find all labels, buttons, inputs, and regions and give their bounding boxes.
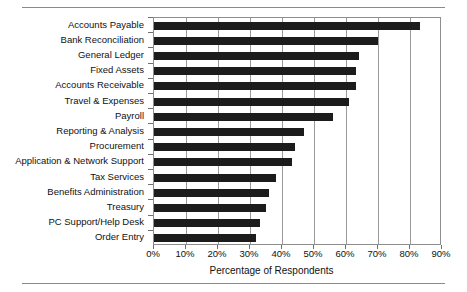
bar (154, 128, 304, 136)
category-tick-mark (148, 169, 153, 170)
bar (154, 143, 295, 151)
bar (154, 52, 359, 60)
category-label: Order Entry (0, 232, 149, 242)
category-tick-mark (148, 78, 153, 79)
category-tick-mark (148, 215, 153, 216)
category-tick-mark (148, 139, 153, 140)
bar (154, 37, 378, 45)
category-tick-mark (148, 108, 153, 109)
gridline (378, 18, 379, 244)
category-label: Reporting & Analysis (0, 126, 149, 136)
category-tick-mark (148, 154, 153, 155)
horizontal-bar-chart: Accounts PayableBank ReconciliationGener… (0, 0, 467, 292)
value-axis-ticks: 0%10%20%30%40%50%60%70%80%90% (0, 248, 467, 262)
category-label: Application & Network Support (0, 156, 149, 166)
category-label: Procurement (0, 141, 149, 151)
x-tick-mark (409, 245, 410, 249)
x-tick-mark (249, 245, 250, 249)
gridline (410, 18, 411, 244)
bar (154, 98, 349, 106)
bar (154, 174, 276, 182)
plot-area (153, 17, 441, 245)
category-label: Accounts Payable (0, 20, 149, 30)
category-axis-labels: Accounts PayableBank ReconciliationGener… (0, 17, 149, 245)
x-tick-mark (281, 245, 282, 249)
category-label: Tax Services (0, 172, 149, 182)
bar (154, 22, 420, 30)
category-label: Bank Reconciliation (0, 35, 149, 45)
category-tick-mark (148, 17, 153, 18)
category-tick-mark (148, 199, 153, 200)
category-tick-mark (148, 63, 153, 64)
category-label: Travel & Expenses (0, 96, 149, 106)
category-label: General Ledger (0, 50, 149, 60)
bar (154, 158, 292, 166)
category-label: PC Support/Help Desk (0, 217, 149, 227)
category-label: Accounts Receivable (0, 80, 149, 90)
chart-page: Accounts PayableBank ReconciliationGener… (0, 0, 467, 292)
category-tick-mark (148, 32, 153, 33)
bar (154, 204, 266, 212)
bar (154, 67, 356, 75)
category-tick-mark (148, 230, 153, 231)
x-tick-mark (345, 245, 346, 249)
x-tick-mark (153, 245, 154, 249)
x-axis-title-text: Percentage of Respondents (210, 265, 334, 276)
x-tick-mark (217, 245, 218, 249)
bar (154, 82, 356, 90)
category-label: Treasury (0, 202, 149, 212)
x-tick-mark (313, 245, 314, 249)
x-axis-title: Percentage of Respondents (0, 265, 467, 276)
bar (154, 219, 260, 227)
x-tick-mark (185, 245, 186, 249)
x-tick-mark (441, 245, 442, 249)
category-label: Fixed Assets (0, 65, 149, 75)
bar (154, 113, 333, 121)
bar (154, 189, 269, 197)
category-tick-mark (148, 123, 153, 124)
x-tick-mark (377, 245, 378, 249)
bar (154, 234, 256, 242)
category-tick-mark (148, 93, 153, 94)
x-tick-label: 90% (421, 248, 461, 259)
category-label: Benefits Administration (0, 187, 149, 197)
category-tick-mark (148, 184, 153, 185)
category-tick-mark (148, 47, 153, 48)
category-label: Payroll (0, 111, 149, 121)
